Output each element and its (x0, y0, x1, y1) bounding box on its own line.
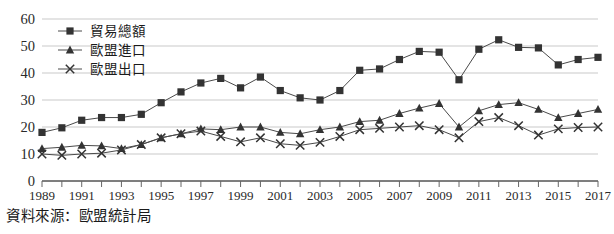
datapoint-0-19 (416, 48, 423, 55)
datapoint-0-28 (594, 54, 601, 61)
datapoint-2-9 (217, 132, 225, 140)
datapoint-0-8 (197, 79, 204, 86)
datapoint-0-13 (297, 94, 304, 101)
xtick-label-2005: 2005 (347, 188, 373, 203)
datapoint-0-27 (575, 56, 582, 63)
legend-item-1: 歐盟進口 (58, 43, 146, 58)
datapoint-0-10 (237, 84, 244, 91)
ytick-label-0: 0 (28, 173, 35, 189)
datapoint-2-24 (514, 121, 522, 129)
xtick-label-1989: 1989 (29, 188, 55, 203)
datapoint-0-15 (336, 87, 343, 94)
datapoint-0-12 (277, 87, 284, 94)
xtick-label-1993: 1993 (108, 188, 134, 203)
trade-line-chart: 0102030405060198919911993199519971999200… (0, 0, 614, 234)
datapoint-0-4 (118, 114, 125, 121)
ytick-label-60: 60 (21, 11, 36, 27)
xtick-label-2007: 2007 (386, 188, 413, 203)
xtick-label-2015: 2015 (545, 188, 571, 203)
xtick-label-2001: 2001 (267, 188, 293, 203)
datapoint-0-16 (356, 67, 363, 74)
datapoint-0-0 (38, 129, 45, 136)
xtick-label-1999: 1999 (228, 188, 254, 203)
datapoint-0-14 (316, 96, 323, 103)
datapoint-2-15 (336, 132, 344, 140)
datapoint-2-10 (236, 138, 244, 146)
datapoint-0-7 (177, 88, 184, 95)
legend-item-2: 歐盟出口 (58, 62, 146, 77)
datapoint-2-23 (495, 113, 503, 121)
ytick-label-10: 10 (21, 146, 36, 162)
chart-figure: 0102030405060198919911993199519971999200… (0, 0, 614, 234)
datapoint-0-3 (98, 114, 105, 121)
datapoint-0-17 (376, 65, 383, 72)
xtick-label-1995: 1995 (148, 188, 174, 203)
datapoint-0-23 (495, 36, 502, 43)
source-caption: 資料來源：歐盟統計局 (6, 204, 151, 225)
xtick-label-2017: 2017 (585, 188, 612, 203)
square-marker-icon (66, 27, 73, 34)
datapoint-2-25 (534, 131, 542, 139)
datapoint-1-2 (78, 141, 86, 149)
datapoint-2-21 (455, 134, 463, 142)
datapoint-1-28 (594, 105, 602, 113)
datapoint-0-22 (475, 46, 482, 53)
datapoint-0-26 (555, 61, 562, 68)
datapoint-0-20 (436, 49, 443, 56)
datapoint-1-24 (514, 98, 522, 106)
ytick-label-20: 20 (21, 119, 36, 135)
ytick-label-50: 50 (21, 38, 36, 54)
datapoint-0-24 (515, 44, 522, 51)
datapoint-0-21 (455, 76, 462, 83)
legend-label-0: 貿易總額 (90, 23, 146, 39)
xtick-label-2011: 2011 (466, 188, 492, 203)
xtick-label-2013: 2013 (506, 188, 532, 203)
legend-label-1: 歐盟進口 (90, 43, 146, 58)
datapoint-0-25 (535, 44, 542, 51)
xtick-label-1991: 1991 (69, 188, 95, 203)
datapoint-0-6 (158, 99, 165, 106)
datapoint-2-11 (256, 134, 264, 142)
xtick-label-2003: 2003 (307, 188, 333, 203)
ytick-label-40: 40 (21, 65, 36, 81)
datapoint-0-18 (396, 56, 403, 63)
datapoint-2-22 (475, 117, 483, 125)
datapoint-0-2 (78, 117, 85, 124)
xtick-label-1997: 1997 (188, 188, 215, 203)
datapoint-0-9 (217, 75, 224, 82)
ytick-label-30: 30 (21, 92, 36, 108)
legend-label-2: 歐盟出口 (90, 62, 146, 77)
datapoint-0-11 (257, 73, 264, 80)
datapoint-0-1 (58, 124, 65, 131)
legend-item-0: 貿易總額 (58, 23, 146, 39)
xtick-label-2009: 2009 (426, 188, 452, 203)
series-line-2 (42, 118, 598, 156)
datapoint-0-5 (138, 111, 145, 118)
